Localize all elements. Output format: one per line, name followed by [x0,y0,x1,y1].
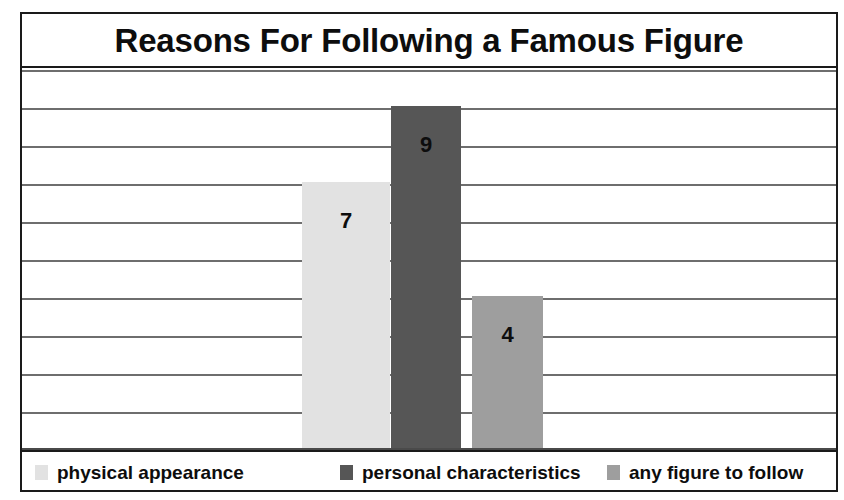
legend-item[interactable]: physical appearance [35,452,244,492]
chart-frame: Reasons For Following a Famous Figure 79… [20,12,838,492]
legend-swatch-icon [340,465,353,480]
gridline [22,70,836,72]
legend-swatch-icon [35,465,48,480]
legend-label: any figure to follow [629,463,803,482]
bar: 4 [472,296,543,448]
bar-value-label: 9 [391,134,461,156]
bar-value-label: 4 [472,324,543,346]
bar: 9 [391,106,461,448]
chart-title: Reasons For Following a Famous Figure [115,24,744,57]
legend-label: physical appearance [57,463,244,482]
chart-legend: physical appearancepersonal characterist… [22,450,836,490]
bar-value-label: 7 [302,210,390,232]
legend-swatch-icon [607,465,620,480]
legend-item[interactable]: any figure to follow [607,452,803,492]
legend-label: personal characteristics [362,463,581,482]
legend-item[interactable]: personal characteristics [340,452,581,492]
bar: 7 [302,182,390,448]
plot-area: 794 [22,68,836,450]
chart-title-box: Reasons For Following a Famous Figure [22,14,836,68]
